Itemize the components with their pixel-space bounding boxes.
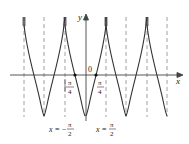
neg-pi-2-sign: − — [62, 125, 67, 134]
y-axis-arrow — [84, 14, 89, 20]
curve — [23, 17, 167, 116]
pos-pi-2-numerator: π — [110, 121, 114, 129]
pos-pi-2-lhs: x — [95, 125, 100, 134]
tick-label-neg-pi-4: π 4 — [65, 79, 74, 96]
point-neg-pi-4 — [73, 73, 76, 76]
pos-pi-4-denominator: 4 — [98, 88, 102, 96]
neg-pi-2-lhs: x — [48, 125, 53, 134]
neg-pi-4-numerator: π — [68, 79, 72, 87]
neg-pi-2-denominator: 2 — [68, 130, 72, 138]
origin-label: 0 — [88, 65, 92, 74]
asymptote-label-pos-pi-2: x = π 2 — [95, 121, 116, 138]
point-pos-pi-4 — [94, 73, 97, 76]
pos-pi-2-eq: = — [102, 125, 107, 134]
axes — [10, 14, 183, 121]
pos-pi-2-denominator: 2 — [110, 130, 114, 138]
asymptote-label-neg-pi-2: x = − π 2 — [48, 121, 74, 138]
neg-pi-2-numerator: π — [68, 121, 72, 129]
function-graph: y x 0 π 4 π 4 x = − π 2 x = π 2 — [0, 0, 189, 144]
pos-pi-4-numerator: π — [98, 79, 102, 87]
neg-pi-2-eq: = — [55, 125, 60, 134]
y-axis-label: y — [77, 12, 82, 22]
neg-pi-4-denominator: 4 — [68, 88, 72, 96]
tick-label-pos-pi-4: π 4 — [97, 79, 104, 96]
x-axis-label: x — [175, 76, 180, 86]
